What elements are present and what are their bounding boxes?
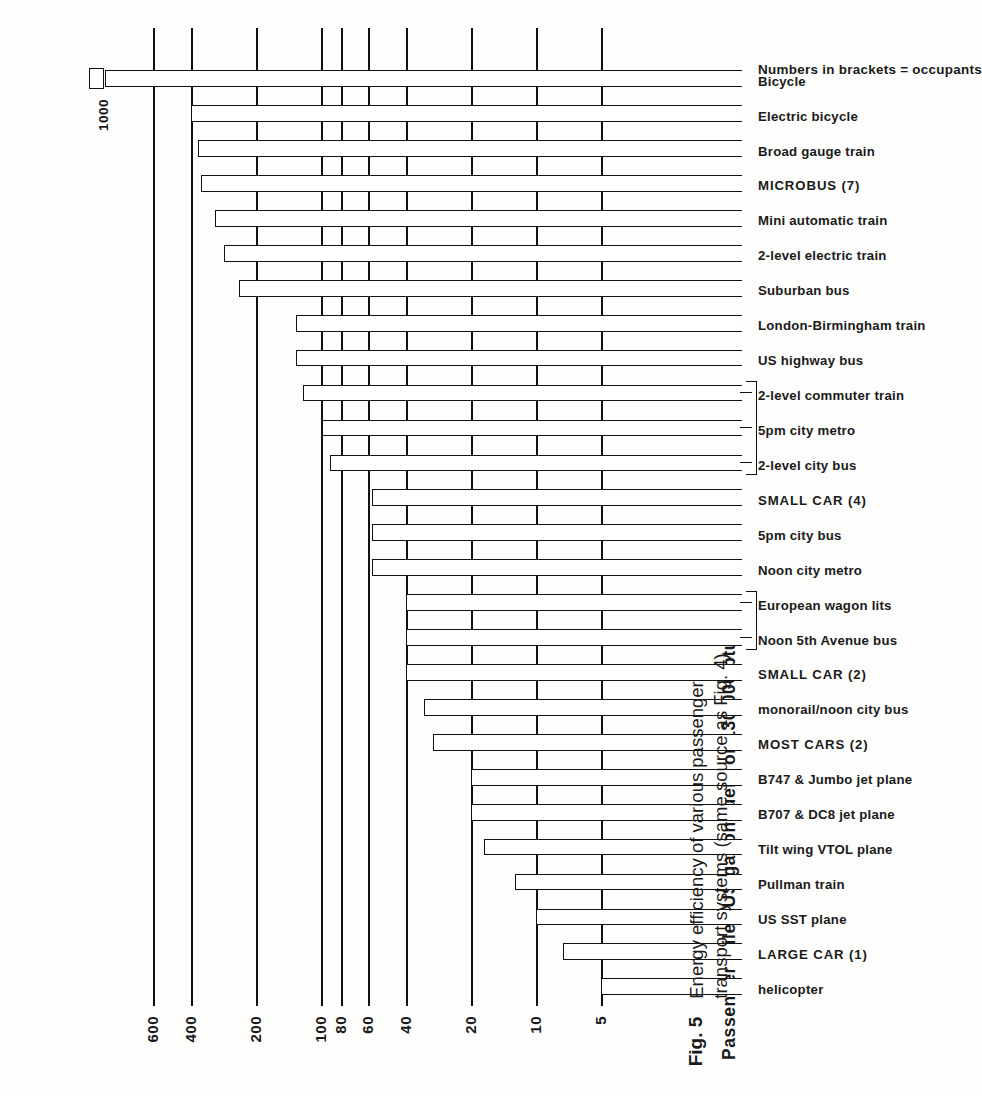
bar xyxy=(296,350,742,367)
bar xyxy=(239,280,742,297)
tick-label: 600 xyxy=(144,1016,161,1078)
category-label: 5pm city metro xyxy=(758,423,855,438)
bar xyxy=(296,315,742,332)
category-label: 2-level city bus xyxy=(758,458,857,473)
figure-number: Fig. 5 xyxy=(685,1016,707,1066)
bar xyxy=(330,455,742,472)
bar xyxy=(372,559,742,576)
bar xyxy=(198,140,742,157)
figure-caption-text: Energy efficiency of various passenger t… xyxy=(685,636,732,998)
tick-label: 200 xyxy=(247,1016,264,1078)
category-label: Suburban bus xyxy=(758,283,850,298)
bracket-tick xyxy=(740,427,752,428)
bracket-tick xyxy=(740,602,752,603)
tick-label: 40 xyxy=(397,1016,414,1078)
bar xyxy=(322,420,742,437)
bar xyxy=(215,210,742,227)
bracket-tick xyxy=(740,462,752,463)
brackets-note: Numbers in brackets = occupants xyxy=(758,62,982,77)
value-callout-1000: 1000 xyxy=(96,99,111,131)
gridline xyxy=(153,28,155,1006)
chart-plot-rotated: Passenger miles/US gallon fuel ( or 130,… xyxy=(62,18,752,1078)
category-label: 2-level electric train xyxy=(758,248,887,263)
axis-break-marker xyxy=(89,68,104,89)
bar xyxy=(224,245,742,262)
bar xyxy=(191,105,742,122)
chart-plot-area: Passenger miles/US gallon fuel ( or 130,… xyxy=(62,18,752,1078)
tick-label: 80 xyxy=(332,1016,349,1078)
category-label: Noon city metro xyxy=(758,563,862,578)
category-label: Electric bicycle xyxy=(758,109,858,124)
category-label: London-Birmingham train xyxy=(758,318,926,333)
category-label: MICROBUS (7) xyxy=(758,178,860,193)
tick-label: 10 xyxy=(527,1016,544,1078)
tick-label: 100 xyxy=(312,1016,329,1078)
bar xyxy=(201,175,742,192)
category-label: Mini automatic train xyxy=(758,213,888,228)
tick-label: 5 xyxy=(592,1016,609,1078)
figure-caption-block: Fig. 5 Energy efficiency of various pass… xyxy=(732,636,788,1066)
group-bracket xyxy=(746,381,757,475)
bar xyxy=(406,594,742,611)
tick-label: 60 xyxy=(359,1016,376,1078)
category-label: 2-level commuter train xyxy=(758,388,904,403)
category-label: SMALL CAR (4) xyxy=(758,493,867,508)
category-label: European wagon lits xyxy=(758,598,892,613)
category-label: 5pm city bus xyxy=(758,528,842,543)
bar xyxy=(372,489,742,506)
category-label: Broad gauge train xyxy=(758,144,875,159)
bracket-tick xyxy=(740,392,752,393)
category-label: US highway bus xyxy=(758,353,863,368)
bar xyxy=(372,524,742,541)
tick-label: 400 xyxy=(182,1016,199,1078)
tick-label: 20 xyxy=(462,1016,479,1078)
bar xyxy=(105,70,742,87)
bar xyxy=(303,385,742,402)
gridline xyxy=(191,28,193,1006)
